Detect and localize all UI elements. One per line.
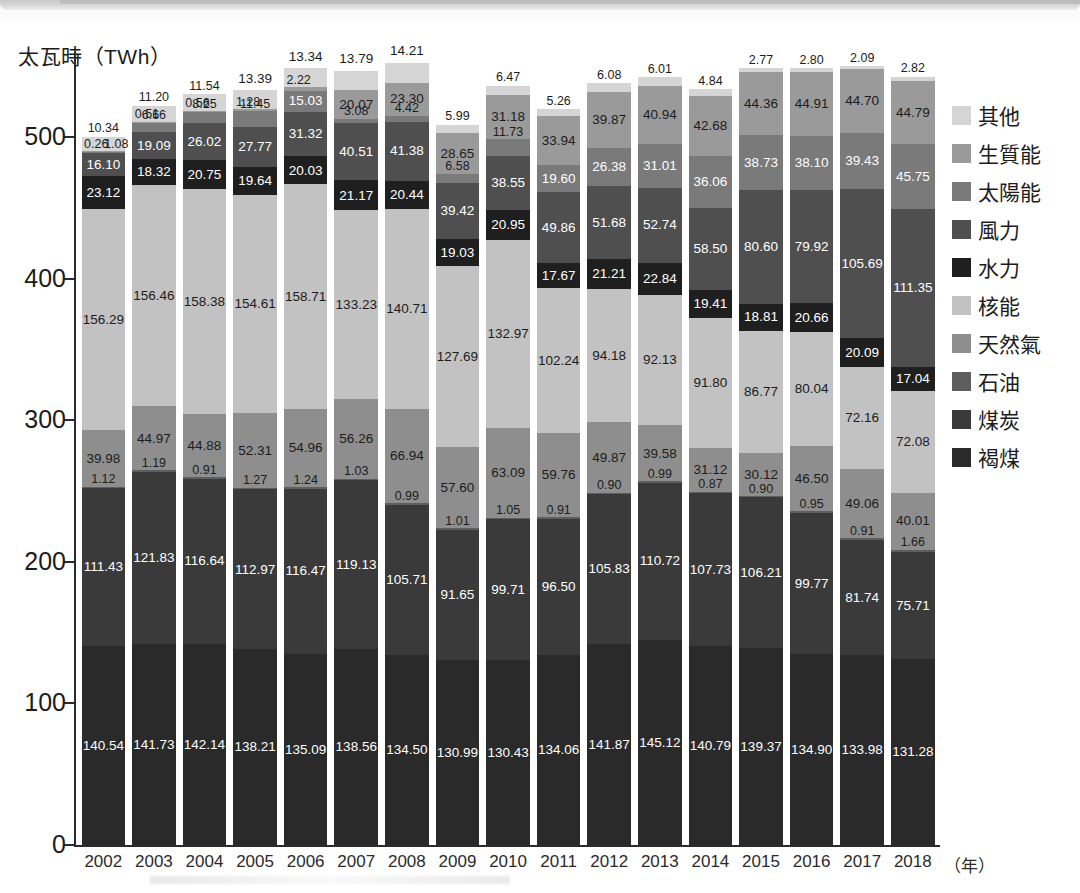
bar-segment[interactable]: 49.86: [537, 192, 581, 263]
bar-segment[interactable]: 135.09: [284, 654, 328, 845]
bar-segment[interactable]: 140.71: [385, 209, 429, 408]
bar-column[interactable]: 130.9991.651.0157.60127.6919.0339.426.58…: [432, 52, 483, 845]
bar-column[interactable]: 142.14116.640.9144.88158.3820.7526.028.2…: [179, 52, 230, 845]
bar-segment[interactable]: 51.68: [587, 186, 631, 259]
bar-segment[interactable]: 40.51: [334, 123, 378, 180]
bar-segment[interactable]: 102.24: [537, 288, 581, 433]
bar-segment[interactable]: 5.99: [436, 125, 480, 133]
bar-segment[interactable]: 138.21: [233, 649, 277, 845]
legend-item[interactable]: 其他: [952, 96, 1072, 134]
bar-segment[interactable]: 39.42: [436, 183, 480, 239]
bar-segment[interactable]: 107.73: [689, 493, 733, 646]
legend-item[interactable]: 太陽能: [952, 172, 1072, 210]
bar-segment[interactable]: 130.99: [436, 660, 480, 845]
bar-segment[interactable]: 132.97: [486, 240, 530, 428]
bar-segment[interactable]: 18.81: [739, 304, 783, 331]
bar-segment[interactable]: 121.83: [132, 472, 176, 645]
bar-segment[interactable]: 13.79: [334, 71, 378, 91]
bar-segment[interactable]: 26.38: [587, 148, 631, 185]
bar-segment[interactable]: 1.24: [284, 487, 328, 489]
bar-segment[interactable]: 39.43: [840, 133, 884, 189]
bar-segment[interactable]: 33.94: [537, 116, 581, 164]
bar-segment[interactable]: 141.73: [132, 644, 176, 845]
bar-segment[interactable]: 140.54: [82, 646, 126, 845]
bar-segment[interactable]: 80.04: [790, 332, 834, 445]
bar-segment[interactable]: 134.06: [537, 655, 581, 845]
bar-segment[interactable]: 127.69: [436, 266, 480, 447]
bar-column[interactable]: 145.12110.720.9939.5892.1322.8452.7431.0…: [635, 52, 686, 845]
bar-segment[interactable]: 142.14: [183, 644, 227, 845]
bar-segment[interactable]: 81.74: [840, 540, 884, 656]
bar-segment[interactable]: 112.97: [233, 489, 277, 649]
bar-segment[interactable]: 158.71: [284, 184, 328, 409]
bar-segment[interactable]: 18.32: [132, 159, 176, 185]
bar-segment[interactable]: 20.66: [790, 303, 834, 332]
bar-segment[interactable]: 0.87: [689, 492, 733, 493]
bar-segment[interactable]: 130.43: [486, 660, 530, 845]
bar-segment[interactable]: 138.56: [334, 649, 378, 845]
bar-segment[interactable]: 21.17: [334, 180, 378, 210]
bar-segment[interactable]: 1.03: [334, 479, 378, 480]
bar-segment[interactable]: 22.84: [638, 263, 682, 295]
bar-segment[interactable]: 105.69: [840, 189, 884, 339]
bar-segment[interactable]: 156.29: [82, 209, 126, 430]
bar-segment[interactable]: 99.77: [790, 513, 834, 654]
bar-segment[interactable]: 17.04: [891, 367, 935, 391]
bar-column[interactable]: 139.37106.210.9030.1286.7718.8180.6038.7…: [736, 52, 787, 845]
bar-segment[interactable]: 145.12: [638, 640, 682, 846]
bar-segment[interactable]: 1.27: [233, 488, 277, 490]
bar-segment[interactable]: 96.50: [537, 519, 581, 656]
bar-segment[interactable]: 158.38: [183, 189, 227, 413]
bar-segment[interactable]: 3.08: [334, 119, 378, 123]
bar-segment[interactable]: 134.50: [385, 655, 429, 845]
bar-segment[interactable]: 1.08: [82, 152, 126, 154]
bar-segment[interactable]: 0.91: [537, 517, 581, 518]
bar-segment[interactable]: 141.87: [587, 644, 631, 845]
bar-segment[interactable]: 19.64: [233, 167, 277, 195]
bar-segment[interactable]: 23.12: [82, 176, 126, 209]
bar-segment[interactable]: 20.03: [284, 156, 328, 184]
bar-column[interactable]: 133.9881.740.9149.0672.1620.09105.6939.4…: [837, 52, 888, 845]
bar-segment[interactable]: 4.84: [689, 89, 733, 96]
bar-segment[interactable]: 20.95: [486, 210, 530, 240]
bar-segment[interactable]: 44.91: [790, 72, 834, 136]
bar-segment[interactable]: 2.82: [891, 77, 935, 81]
legend-item[interactable]: 生質能: [952, 134, 1072, 172]
bar-segment[interactable]: 131.28: [891, 659, 935, 845]
bar-segment[interactable]: 2.77: [739, 68, 783, 72]
bar-segment[interactable]: 44.79: [891, 81, 935, 144]
bar-segment[interactable]: 106.21: [739, 497, 783, 647]
bar-segment[interactable]: 17.67: [537, 263, 581, 288]
bar-segment[interactable]: 5.26: [537, 109, 581, 116]
bar-segment[interactable]: 44.70: [840, 69, 884, 132]
bar-segment[interactable]: 110.72: [638, 483, 682, 640]
bar-segment[interactable]: 38.10: [790, 136, 834, 190]
bar-column[interactable]: 134.0696.500.9159.76102.2417.6749.8619.6…: [533, 52, 584, 845]
bar-column[interactable]: 138.56119.131.0356.26133.2321.1740.513.0…: [331, 52, 382, 845]
bar-segment[interactable]: 2.22: [284, 87, 328, 90]
bar-column[interactable]: 138.21112.971.2752.31154.6119.6427.7711.…: [230, 52, 281, 845]
bar-segment[interactable]: 26.02: [183, 123, 227, 160]
bar-segment[interactable]: 0.91: [183, 477, 227, 478]
bar-column[interactable]: 135.09116.471.2454.96158.7120.0331.3215.…: [280, 52, 331, 845]
bar-segment[interactable]: 52.74: [638, 188, 682, 263]
bar-segment[interactable]: 92.13: [638, 295, 682, 425]
bar-segment[interactable]: 8.25: [183, 112, 227, 124]
bar-segment[interactable]: 44.36: [739, 72, 783, 135]
bar-segment[interactable]: 21.21: [587, 259, 631, 289]
bar-segment[interactable]: 72.08: [891, 391, 935, 493]
bar-segment[interactable]: 2.80: [790, 68, 834, 72]
bar-segment[interactable]: 91.80: [689, 318, 733, 448]
bar-segment[interactable]: 105.71: [385, 505, 429, 655]
bar-segment[interactable]: 94.18: [587, 289, 631, 422]
bar-segment[interactable]: 0.90: [587, 493, 631, 494]
bar-segment[interactable]: 38.55: [486, 156, 530, 211]
bar-segment[interactable]: 119.13: [334, 480, 378, 649]
bar-segment[interactable]: 0.99: [385, 503, 429, 504]
bar-segment[interactable]: 0.90: [739, 496, 783, 497]
bar-segment[interactable]: 19.41: [689, 290, 733, 317]
bar-segment[interactable]: 1.05: [486, 518, 530, 519]
bar-segment[interactable]: 45.75: [891, 144, 935, 209]
bar-segment[interactable]: 6.58: [436, 174, 480, 183]
bar-segment[interactable]: 19.60: [537, 165, 581, 193]
